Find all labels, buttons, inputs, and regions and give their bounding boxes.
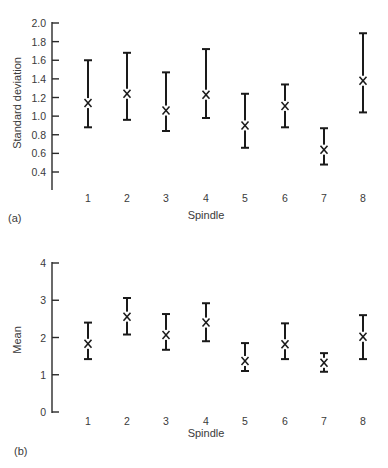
y-tick-label: 1.4	[31, 73, 46, 85]
y-tick-label: 1.8	[31, 36, 46, 48]
x-tick-label: 1	[85, 192, 91, 204]
error-bars-b	[84, 298, 367, 372]
x-axis-title-a: Spindle	[188, 209, 225, 221]
x-tick-label: 5	[242, 192, 248, 204]
x-tick-label: 8	[360, 415, 366, 427]
x-tick-label: 3	[163, 192, 169, 204]
error-bar-spindle-3	[162, 314, 170, 350]
x-tick-label: 7	[321, 415, 327, 427]
y-tick-label: 3	[40, 294, 46, 306]
error-bar-spindle-8	[359, 315, 367, 359]
x-tick-label: 6	[282, 192, 288, 204]
y-tick-label: 1.6	[31, 54, 46, 66]
x-tick-label: 3	[163, 415, 169, 427]
error-bar-spindle-7	[320, 128, 328, 164]
error-bar-spindle-7	[320, 353, 328, 372]
x-tick-label: 2	[124, 415, 130, 427]
error-bar-spindle-6	[281, 323, 289, 359]
x-axis-title-b: Spindle	[188, 427, 225, 439]
x-tick-label: 4	[203, 415, 209, 427]
x-tick-label: 8	[360, 192, 366, 204]
error-bar-spindle-1	[84, 60, 92, 127]
panel-a-std-dev-chart: Standard deviation 2.01.81.61.41.21.00.8…	[8, 17, 367, 224]
x-tick-label: 7	[321, 192, 327, 204]
x-axis-tick-labels-b: 12345678	[85, 415, 366, 427]
figure: Standard deviation 2.01.81.61.41.21.00.8…	[0, 0, 388, 468]
y-tick-label: 4	[40, 257, 46, 269]
y-axis-ticks-a: 2.01.81.61.41.21.00.80.60.4	[31, 17, 59, 178]
y-axis-title-b: Mean	[11, 326, 23, 354]
error-bar-spindle-4	[202, 303, 210, 341]
error-bar-spindle-6	[281, 84, 289, 127]
y-tick-label: 0.6	[31, 147, 46, 159]
x-axis-tick-labels-a: 12345678	[85, 192, 366, 204]
error-bars-a	[84, 33, 367, 164]
error-bar-spindle-4	[202, 49, 210, 118]
y-axis-ticks-b: 43210	[40, 257, 59, 418]
y-tick-label: 2	[40, 332, 46, 344]
y-tick-label: 1.2	[31, 92, 46, 104]
x-tick-label: 1	[85, 415, 91, 427]
y-tick-label: 0.4	[31, 166, 46, 178]
x-tick-label: 5	[242, 415, 248, 427]
y-tick-label: 1	[40, 369, 46, 381]
error-bar-spindle-8	[359, 33, 367, 112]
panel-label-a: (a)	[8, 212, 21, 224]
error-bar-spindle-2	[123, 298, 131, 335]
y-axis-title-a: Standard deviation	[11, 57, 23, 149]
chart-canvas: Standard deviation 2.01.81.61.41.21.00.8…	[0, 0, 388, 468]
y-tick-label: 0.8	[31, 129, 46, 141]
y-tick-label: 0	[40, 406, 46, 418]
y-tick-label: 2.0	[31, 17, 46, 29]
error-bar-spindle-5	[241, 94, 249, 148]
error-bar-spindle-3	[162, 72, 170, 131]
error-bar-spindle-5	[241, 343, 249, 371]
panel-label-b: (b)	[14, 445, 27, 457]
error-bar-spindle-2	[123, 53, 131, 120]
x-tick-label: 6	[282, 415, 288, 427]
y-tick-label: 1.0	[31, 110, 46, 122]
x-tick-label: 4	[203, 192, 209, 204]
panel-b-mean-chart: Mean 43210 12345678 Spindle (b)	[11, 257, 367, 457]
error-bar-spindle-1	[84, 323, 92, 360]
x-tick-label: 2	[124, 192, 130, 204]
